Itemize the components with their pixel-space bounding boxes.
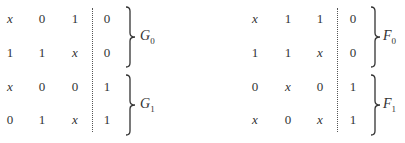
matrix-cell: x	[285, 80, 291, 93]
right-brace-icon	[370, 6, 382, 68]
matrix-cell: 1	[350, 80, 357, 93]
matrix-cell: 1	[350, 113, 357, 126]
matrix-cell: x	[317, 46, 323, 59]
group-label: F1	[383, 96, 396, 114]
matrix-cell: x	[252, 12, 258, 25]
matrix-cell: 1	[285, 46, 292, 59]
matrix-cell: 0	[285, 113, 292, 126]
matrix-cell: 0	[350, 46, 357, 59]
matrix-cell: 0	[317, 80, 324, 93]
matrix-cell: x	[317, 113, 323, 126]
dotted-separator	[337, 8, 338, 132]
matrix-cell: 1	[252, 46, 259, 59]
matrix-cell: 0	[350, 12, 357, 25]
matrix-cell: 1	[317, 12, 324, 25]
matrix-cell: x	[252, 113, 258, 126]
matrix-cell: 1	[285, 12, 292, 25]
right-brace-icon	[370, 74, 382, 136]
group-label: F0	[383, 28, 396, 46]
matrix-cell: 0	[252, 80, 259, 93]
table-f: x11011x00x01x0x1F0F1	[0, 0, 200, 143]
